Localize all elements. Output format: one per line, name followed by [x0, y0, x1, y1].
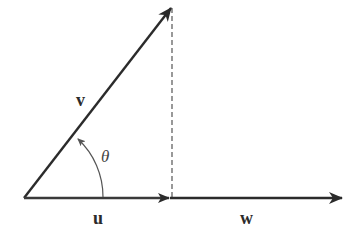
angle-theta-arc — [78, 139, 103, 197]
label-w: w — [240, 208, 253, 228]
vector-v-arrow — [24, 8, 171, 198]
label-v: v — [76, 90, 85, 110]
label-theta: θ — [101, 147, 109, 166]
vector-diagram: v θ u w — [0, 0, 356, 236]
label-u: u — [93, 208, 103, 228]
